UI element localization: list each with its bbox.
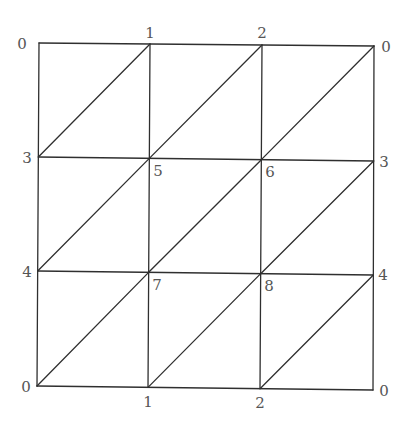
diagonal-edge bbox=[260, 275, 373, 389]
horizontal-edge bbox=[37, 386, 373, 390]
node-label-right-4: 4 bbox=[378, 266, 388, 284]
vertical-edge bbox=[260, 45, 262, 389]
diagonal-edge bbox=[148, 274, 261, 388]
horizontal-edge bbox=[38, 271, 374, 275]
node-label-bottom-left: 0 bbox=[21, 378, 31, 396]
triangulated-mesh-diagram: 0120356347840120 bbox=[0, 0, 414, 423]
node-label-bottom-1: 1 bbox=[143, 393, 153, 411]
node-label-inner-5: 5 bbox=[153, 162, 163, 180]
node-label-top-left: 0 bbox=[17, 35, 27, 53]
node-label-left-4: 4 bbox=[22, 263, 32, 281]
node-label-left-3: 3 bbox=[22, 149, 32, 167]
vertical-edge bbox=[373, 46, 374, 390]
node-label-inner-8: 8 bbox=[264, 277, 274, 295]
diagonal-edge bbox=[38, 44, 150, 157]
vertical-edge bbox=[37, 43, 39, 386]
diagonal-edge bbox=[38, 158, 150, 271]
diagonal-edge bbox=[149, 160, 262, 273]
horizontal-edge bbox=[39, 43, 374, 46]
node-label-bottom-right: 0 bbox=[379, 382, 389, 400]
diagonal-edge bbox=[261, 161, 374, 274]
diagonal-edge bbox=[149, 45, 262, 158]
diagonal-edge bbox=[261, 46, 374, 160]
node-label-top-right: 0 bbox=[381, 38, 391, 56]
node-label-bottom-2: 2 bbox=[255, 394, 265, 412]
node-labels: 0120356347840120 bbox=[17, 24, 391, 412]
node-label-inner-7: 7 bbox=[152, 276, 162, 294]
node-label-inner-6: 6 bbox=[265, 163, 275, 181]
node-label-top-1: 1 bbox=[145, 24, 155, 42]
mesh-edges bbox=[37, 43, 374, 390]
diagonal-edge bbox=[37, 272, 149, 386]
horizontal-edge bbox=[38, 157, 373, 161]
vertical-edge bbox=[148, 44, 150, 387]
node-label-top-2: 2 bbox=[257, 24, 267, 42]
node-label-right-3: 3 bbox=[379, 153, 389, 171]
